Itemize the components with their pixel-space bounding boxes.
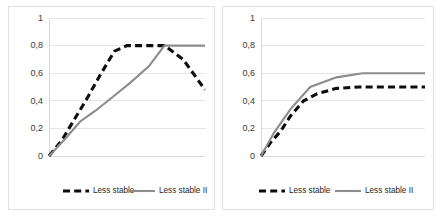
y-axis-tick-label: 1 bbox=[250, 13, 255, 23]
y-axis-tick-label: 0,2 bbox=[30, 123, 43, 133]
chart-legend: Less stableLess stable II bbox=[63, 186, 207, 195]
legend-label-less-stable: Less stable bbox=[93, 186, 135, 195]
figure-container: 00,20,40,60,81Less stableLess stable II … bbox=[0, 0, 442, 221]
legend-label-less-stable: Less stable bbox=[289, 186, 331, 195]
line-chart-left: 00,20,40,60,81Less stableLess stable II bbox=[9, 7, 214, 209]
chart-legend: Less stableLess stable II bbox=[259, 186, 413, 195]
y-axis-tick-label: 0,4 bbox=[30, 96, 43, 106]
legend-label-less-stable-ii: Less stable II bbox=[159, 186, 207, 195]
y-axis-tick-label: 0,4 bbox=[242, 96, 255, 106]
line-chart-right: 00,20,40,60,81Less stableLess stable II bbox=[223, 7, 433, 209]
y-axis-tick-label: 0,2 bbox=[242, 123, 255, 133]
legend-label-less-stable-ii: Less stable II bbox=[365, 186, 413, 195]
plot-area-right: 00,20,40,60,81Less stableLess stable II bbox=[223, 7, 433, 209]
y-axis-tick-label: 1 bbox=[38, 13, 43, 23]
y-axis-tick-label: 0,8 bbox=[242, 40, 255, 50]
y-axis-tick-label: 0,6 bbox=[30, 68, 43, 78]
plot-area-left: 00,20,40,60,81Less stableLess stable II bbox=[9, 7, 214, 209]
y-axis-tick-label: 0,6 bbox=[242, 68, 255, 78]
series-line-less-stable bbox=[261, 87, 425, 156]
y-axis-tick-label: 0 bbox=[38, 151, 43, 161]
chart-panel-right: 00,20,40,60,81Less stableLess stable II bbox=[222, 6, 434, 210]
y-axis-tick-label: 0,8 bbox=[30, 40, 43, 50]
chart-panel-left: 00,20,40,60,81Less stableLess stable II bbox=[8, 6, 215, 210]
y-axis-tick-label: 0 bbox=[250, 151, 255, 161]
